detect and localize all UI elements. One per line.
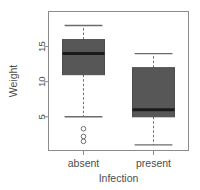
boxplot-figure: 51015WeightabsentpresentInfection bbox=[0, 0, 200, 190]
box-rect bbox=[63, 40, 105, 75]
x-axis-tick-label-present: present bbox=[136, 157, 171, 169]
y-axis-title: Weight bbox=[7, 65, 19, 98]
box-group-absent bbox=[63, 26, 105, 144]
y-axis-tick-label: 15 bbox=[36, 41, 47, 52]
y-axis-tick-label: 10 bbox=[36, 76, 47, 87]
box-group-present bbox=[133, 54, 175, 145]
boxplot-canvas: 51015WeightabsentpresentInfection bbox=[0, 0, 200, 190]
outlier-point bbox=[81, 134, 86, 139]
outlier-point bbox=[81, 139, 86, 144]
y-axis-tick-label: 5 bbox=[36, 114, 47, 119]
x-axis-title: Infection bbox=[99, 172, 139, 184]
x-axis-tick-label-absent: absent bbox=[68, 157, 100, 169]
outlier-point bbox=[81, 126, 86, 131]
